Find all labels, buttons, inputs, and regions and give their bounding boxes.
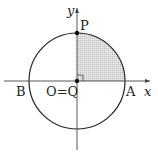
x-axis-arrow-icon: [145, 79, 150, 83]
point-origin: [75, 79, 79, 83]
shaded-sector: [77, 33, 125, 81]
y-axis-label: y: [66, 3, 75, 18]
label-b: B: [16, 84, 26, 99]
y-axis-arrow-icon: [75, 8, 79, 13]
label-origin: O=Q: [46, 84, 78, 99]
coordinate-diagram: y x P A B O=Q: [0, 0, 158, 157]
point-p: [75, 31, 79, 35]
label-a: A: [125, 84, 136, 99]
label-p: P: [80, 18, 89, 33]
x-axis-label: x: [144, 84, 152, 99]
